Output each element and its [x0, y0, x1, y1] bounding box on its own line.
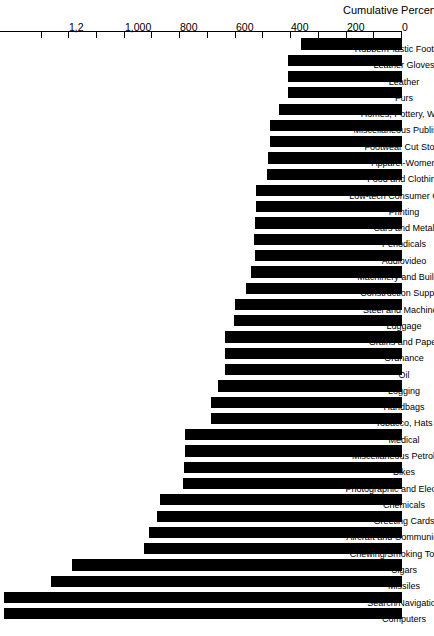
chart-canvas: ComputersSearch/NavigationMissilesCigars…: [0, 0, 434, 636]
bar-cell[interactable]: [0, 248, 402, 264]
bar-cell[interactable]: [0, 150, 402, 166]
category-tick-label: Audiovideo: [382, 256, 427, 266]
bar[interactable]: [225, 348, 402, 359]
bar[interactable]: [234, 315, 402, 326]
bar-cell[interactable]: [0, 345, 402, 361]
category-tick-label: Bikes: [393, 467, 415, 477]
bar[interactable]: [254, 234, 402, 245]
category-tick: Cars and Metal: [402, 215, 434, 231]
category-tick: Machinery and Building: [402, 264, 434, 280]
value-axis-minor-tick: [96, 31, 97, 38]
bar-cell[interactable]: [0, 394, 402, 410]
bar[interactable]: [218, 380, 402, 391]
bar-cell[interactable]: [0, 508, 402, 524]
bar-cell[interactable]: [0, 85, 402, 101]
bar-cell[interactable]: [0, 524, 402, 540]
bar[interactable]: [160, 494, 402, 505]
bar[interactable]: [72, 559, 402, 570]
bar-cell[interactable]: [0, 296, 402, 312]
bar-cell[interactable]: [0, 378, 402, 394]
bar-cell[interactable]: [0, 199, 402, 215]
category-tick-label: Medical: [388, 435, 419, 445]
category-tick: Medical: [402, 427, 434, 443]
bar-series: [0, 36, 402, 622]
category-tick: Apparel-Women: [402, 150, 434, 166]
category-tick-label: Tobacco, Hats: [375, 418, 432, 428]
value-axis-tick-label: 1,000: [125, 21, 151, 33]
bar[interactable]: [255, 250, 402, 261]
bar[interactable]: [288, 71, 402, 82]
category-tick-label: Aircraft and Communications: [346, 532, 434, 542]
category-tick: Footwear Cut Stock: [402, 134, 434, 150]
category-tick: Aircraft and Communications: [402, 524, 434, 540]
bar-cell[interactable]: [0, 329, 402, 345]
value-axis-tick-label: 0: [402, 21, 408, 33]
chart-figure: ComputersSearch/NavigationMissilesCigars…: [0, 0, 434, 636]
bar-cell[interactable]: [0, 541, 402, 557]
bar-cell[interactable]: [0, 573, 402, 589]
category-tick: Audiovideo: [402, 248, 434, 264]
bar-cell[interactable]: [0, 117, 402, 133]
bar[interactable]: [51, 576, 402, 587]
bar-cell[interactable]: [0, 101, 402, 117]
category-tick-label: Miscellaneous Petrol/Coal: [352, 451, 434, 461]
bar-cell[interactable]: [0, 313, 402, 329]
value-axis-tick-label: 1,2: [69, 21, 84, 33]
bar[interactable]: [4, 592, 402, 603]
category-tick-label: Chemicals: [383, 500, 425, 510]
bar[interactable]: [256, 201, 402, 212]
category-tick: Bikes: [402, 459, 434, 475]
category-tick-label: Missiles: [388, 581, 420, 591]
bar-cell[interactable]: [0, 52, 402, 68]
bar-cell[interactable]: [0, 68, 402, 84]
category-tick: Rubber/Plastic Footwear: [402, 36, 434, 52]
bar[interactable]: [288, 87, 402, 98]
value-axis-line: [0, 31, 402, 32]
bar-cell[interactable]: [0, 459, 402, 475]
bar[interactable]: [184, 462, 402, 473]
category-tick: Luggage: [402, 313, 434, 329]
value-axis-tick-label: 600: [236, 21, 254, 33]
bar-cell[interactable]: [0, 362, 402, 378]
bar-cell[interactable]: [0, 475, 402, 491]
value-axis-minor-tick: [373, 31, 374, 38]
category-tick-label: Periodicals: [382, 239, 426, 249]
bar-cell[interactable]: [0, 182, 402, 198]
value-axis-minor-tick: [151, 31, 152, 38]
category-tick: Homes, Pottery, Wool: [402, 101, 434, 117]
category-tick-label: Greeting Cards: [373, 516, 434, 526]
bar[interactable]: [4, 608, 402, 619]
category-tick: Printing: [402, 199, 434, 215]
bar-cell[interactable]: [0, 215, 402, 231]
bar-cell[interactable]: [0, 443, 402, 459]
bar[interactable]: [211, 397, 402, 408]
category-tick-label: Cars and Metal: [373, 223, 434, 233]
value-axis-tick-label: 800: [180, 21, 198, 33]
bar-cell[interactable]: [0, 264, 402, 280]
category-tick-label: Printing: [389, 207, 420, 217]
bar[interactable]: [157, 511, 402, 522]
bar-cell[interactable]: [0, 589, 402, 605]
bar-cell[interactable]: [0, 231, 402, 247]
bar-cell[interactable]: [0, 492, 402, 508]
category-tick: Construction Supplies: [402, 280, 434, 296]
category-tick-label: Leather Gloves: [373, 60, 434, 70]
bar-cell[interactable]: [0, 410, 402, 426]
category-tick: Handbags: [402, 394, 434, 410]
bar-cell[interactable]: [0, 557, 402, 573]
bar[interactable]: [211, 413, 402, 424]
category-tick-label: Low-tech Consumer Goods: [349, 191, 434, 201]
bar-cell[interactable]: [0, 36, 402, 52]
bar-cell[interactable]: [0, 280, 402, 296]
bar[interactable]: [225, 364, 402, 375]
category-tick: Miscellaneous Publishing: [402, 117, 434, 133]
bar-cell[interactable]: [0, 427, 402, 443]
bar-cell[interactable]: [0, 134, 402, 150]
bar[interactable]: [185, 429, 402, 440]
category-tick-label: Chewing/Smoking Tobacco: [350, 549, 434, 559]
category-tick: Leather: [402, 68, 434, 84]
category-tick-label: Search/Navigation: [367, 598, 434, 608]
category-tick: Grains and Paper: [402, 329, 434, 345]
bar-cell[interactable]: [0, 166, 402, 182]
bar-cell[interactable]: [0, 606, 402, 622]
